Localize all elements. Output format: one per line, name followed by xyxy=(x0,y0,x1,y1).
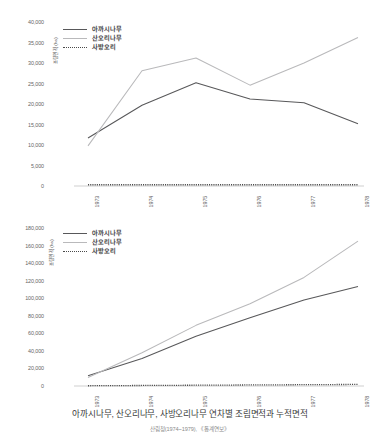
figure-caption: 아까시나무, 산오리나무, 사방오리나무 연차별 조림면적과 누적면적 산림청(… xyxy=(0,408,380,433)
cumulative-planting-plot-area xyxy=(0,222,380,412)
x-axis-tick-label: 1974 xyxy=(148,396,154,408)
x-axis-tick-label: 1976 xyxy=(256,196,262,208)
y-axis-tick-label: 5,000 xyxy=(31,163,44,169)
y-axis-title-bottom: 조림면적 (ha) xyxy=(48,239,54,266)
y-axis-tick-label: 40,000 xyxy=(28,19,44,25)
x-axis-tick-label: 1977 xyxy=(310,396,316,408)
y-axis-tick-label: 160,000 xyxy=(25,243,44,249)
y-axis-tick-label: 180,000 xyxy=(25,225,44,231)
x-axis-tick-label: 1973 xyxy=(94,196,100,208)
x-axis-tick-label: 1973 xyxy=(94,396,100,408)
y-axis-tick-label: 100,000 xyxy=(25,295,44,301)
legend-item: 아까시나무 xyxy=(63,24,122,33)
y-axis-tick-label: 0 xyxy=(41,383,44,389)
cumulative-planting-area-chart: 조림면적 (ha) 020,00040,00060,00080,000100,0… xyxy=(0,222,380,412)
legend-bottom: 아까시나무산오리나무사방오리 xyxy=(63,228,122,255)
y-axis-tick-label: 0 xyxy=(41,183,44,189)
y-axis-tick-label: 10,000 xyxy=(28,142,44,148)
y-axis-tick-label: 30,000 xyxy=(28,60,44,66)
x-axis-tick-label: 1978 xyxy=(364,396,370,408)
legend-item: 사방오리 xyxy=(63,246,122,255)
y-axis-tick-label: 140,000 xyxy=(25,260,44,266)
legend-item-label: 산오리나무 xyxy=(92,237,122,246)
x-axis-tick-label: 1975 xyxy=(202,196,208,208)
x-axis-tick-label: 1977 xyxy=(310,196,316,208)
caption-source: 산림청(1974~1979), 《통계연보》 xyxy=(0,425,380,433)
legend-item: 산오리나무 xyxy=(63,237,122,246)
series-line xyxy=(88,384,358,385)
caption-title: 아까시나무, 산오리나무, 사방오리나무 연차별 조림면적과 누적면적 xyxy=(0,408,380,420)
y-axis-ticks-bottom: 020,00040,00060,00080,000100,000120,0001… xyxy=(0,222,44,412)
y-axis-tick-label: 40,000 xyxy=(28,348,44,354)
y-axis-title-top: 조림면적 (ha) xyxy=(52,37,58,64)
series-line xyxy=(88,83,358,138)
x-axis-tick-label: 1974 xyxy=(148,196,154,208)
y-axis-tick-label: 20,000 xyxy=(28,101,44,107)
x-axis-tick-label: 1976 xyxy=(256,396,262,408)
legend-top: 아까시나무산오리나무사방오리 xyxy=(63,24,122,51)
x-axis-tick-label: 1975 xyxy=(202,396,208,408)
legend-item-label: 사방오리 xyxy=(92,246,116,255)
series-line xyxy=(88,38,358,146)
y-axis-ticks-top: 05,00010,00015,00020,00025,00030,00035,0… xyxy=(0,0,44,222)
legend-item-label: 산오리나무 xyxy=(92,33,122,42)
series-line xyxy=(88,241,358,377)
legend-item-label: 아까시나무 xyxy=(92,228,122,237)
legend-item: 산오리나무 xyxy=(63,33,122,42)
y-axis-tick-label: 80,000 xyxy=(28,313,44,319)
annual-planting-area-chart: 조림면적 (ha) 05,00010,00015,00020,00025,000… xyxy=(0,0,380,222)
legend-item: 아까시나무 xyxy=(63,228,122,237)
x-axis-tick-label: 1978 xyxy=(364,196,370,208)
annual-planting-plot-area xyxy=(0,0,380,222)
y-axis-tick-label: 15,000 xyxy=(28,122,44,128)
y-axis-tick-label: 35,000 xyxy=(28,40,44,46)
legend-item-label: 아까시나무 xyxy=(92,24,122,33)
y-axis-tick-label: 20,000 xyxy=(28,365,44,371)
legend-item: 사방오리 xyxy=(63,42,122,51)
y-axis-tick-label: 25,000 xyxy=(28,81,44,87)
series-line xyxy=(88,287,358,376)
y-axis-tick-label: 120,000 xyxy=(25,278,44,284)
legend-item-label: 사방오리 xyxy=(92,42,116,51)
y-axis-tick-label: 60,000 xyxy=(28,330,44,336)
